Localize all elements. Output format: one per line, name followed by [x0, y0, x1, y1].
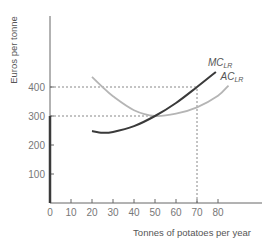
- axes: [50, 16, 262, 203]
- x-tick-label: 40: [128, 207, 140, 218]
- ac-lr-curve: [92, 77, 229, 116]
- x-tick-label: 20: [86, 207, 98, 218]
- y-tick-label: 100: [28, 169, 45, 180]
- mc-lr-label: MCLR: [208, 57, 233, 69]
- x-axis-title: Tonnes of potatoes per year: [133, 227, 251, 238]
- x-tick-label: 50: [149, 207, 161, 218]
- axis-ticks: 01020304050607080100200300400: [28, 82, 224, 219]
- y-tick-label: 400: [28, 82, 45, 93]
- cost-curves-chart: 01020304050607080100200300400 ACLRMCLR E…: [0, 0, 272, 244]
- x-tick-label: 10: [65, 207, 77, 218]
- x-tick-label: 0: [47, 207, 53, 218]
- x-tick-label: 30: [107, 207, 119, 218]
- y-axis-title: Euros per tonne: [8, 16, 19, 84]
- y-tick-label: 200: [28, 140, 45, 151]
- curves: [92, 72, 229, 133]
- x-tick-label: 60: [170, 207, 182, 218]
- y-tick-label: 300: [28, 111, 45, 122]
- ac-lr-label: ACLR: [220, 71, 244, 83]
- x-tick-label: 80: [212, 207, 224, 218]
- x-tick-label: 70: [191, 207, 203, 218]
- curve-labels: ACLRMCLR: [208, 57, 243, 83]
